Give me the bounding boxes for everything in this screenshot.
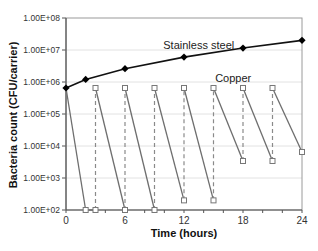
x-axis-title: Time (hours) <box>151 227 218 239</box>
y-tick-label: 1.00E+04 <box>23 141 60 151</box>
copper-marker <box>93 85 98 90</box>
copper-series <box>66 85 305 212</box>
y-tick-label: 1.00E+05 <box>23 109 60 119</box>
copper-marker <box>270 85 275 90</box>
y-tick-label: 1.00E+07 <box>23 45 60 55</box>
x-tick-label: 18 <box>237 215 249 226</box>
x-tick-label: 0 <box>63 215 69 226</box>
stainless-steel-marker <box>62 84 69 91</box>
y-axis-title: Bacteria count (CFU/carrier) <box>7 41 19 188</box>
copper-marker <box>241 158 246 163</box>
copper-decay-line <box>243 88 273 161</box>
copper-marker <box>152 85 157 90</box>
x-tick-label: 24 <box>296 215 308 226</box>
x-tick-label: 12 <box>178 215 190 226</box>
copper-marker <box>182 85 187 90</box>
x-tick-labels: 06121824 <box>63 215 308 226</box>
stainless-steel-marker <box>121 65 128 72</box>
copper-marker <box>123 208 128 213</box>
y-tick-label: 1.00E+03 <box>23 173 60 183</box>
copper-decay-line <box>273 88 303 152</box>
stainless-steel-label: Stainless steel <box>163 39 234 51</box>
copper-marker <box>211 85 216 90</box>
copper-decay-line <box>96 88 126 210</box>
y-tick-label: 1.00E+06 <box>23 77 60 87</box>
copper-marker <box>123 85 128 90</box>
x-tick-label: 6 <box>122 215 128 226</box>
copper-marker <box>93 208 98 213</box>
copper-marker <box>300 149 305 154</box>
copper-marker <box>152 208 157 213</box>
copper-label: Copper <box>215 72 251 84</box>
copper-marker <box>182 198 187 203</box>
y-tick-label: 1.00E+02 <box>23 205 60 215</box>
copper-marker <box>83 208 88 213</box>
copper-marker <box>211 198 216 203</box>
chart: 1.00E+021.00E+031.00E+041.00E+051.00E+06… <box>0 0 318 251</box>
y-tick-label: 1.00E+08 <box>23 13 60 23</box>
copper-marker <box>270 158 275 163</box>
copper-decay-line <box>214 88 244 161</box>
copper-decay-line <box>155 88 185 200</box>
stainless-steel-marker <box>180 53 187 60</box>
copper-marker <box>241 85 246 90</box>
y-tick-labels: 1.00E+021.00E+031.00E+041.00E+051.00E+06… <box>23 13 60 215</box>
copper-decay-line <box>184 88 214 200</box>
copper-decay-line <box>66 88 86 210</box>
stainless-steel-marker <box>298 37 305 44</box>
copper-decay-line <box>125 88 155 210</box>
stainless-steel-marker <box>239 44 246 51</box>
